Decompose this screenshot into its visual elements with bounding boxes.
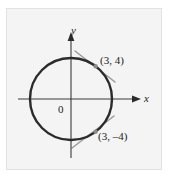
point-label-lower: (3, –4) (98, 131, 127, 142)
y-axis-label: y (71, 25, 76, 36)
x-axis-arrowhead (132, 96, 141, 103)
point-marker-upper (93, 64, 97, 68)
origin-label: 0 (58, 104, 64, 115)
point-label-upper: (3, 4) (100, 55, 124, 66)
x-axis-label: x (144, 93, 149, 104)
figure-container: y x 0 (3, 4) (3, –4) (0, 0, 170, 184)
